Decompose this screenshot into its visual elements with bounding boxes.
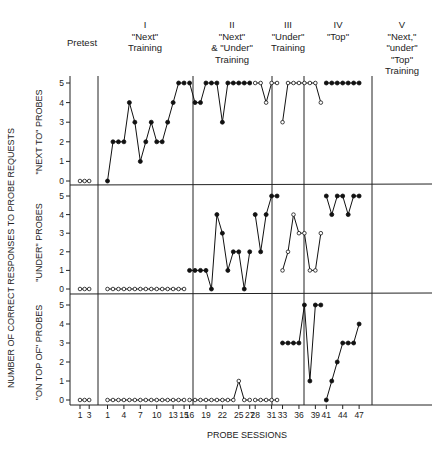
data-point-filled bbox=[193, 101, 197, 105]
data-point-open bbox=[155, 287, 159, 291]
data-point-open bbox=[275, 398, 279, 402]
data-point-filled bbox=[242, 287, 246, 291]
data-point-filled bbox=[253, 213, 257, 217]
data-point-open bbox=[264, 101, 268, 105]
series-line-v bbox=[326, 324, 359, 400]
series-line-i bbox=[108, 83, 185, 181]
data-point-open bbox=[87, 398, 91, 402]
data-point-open bbox=[303, 231, 307, 235]
data-point-open bbox=[160, 398, 164, 402]
x-tick-label: 1 bbox=[78, 410, 83, 420]
x-tick-label: 25 bbox=[234, 410, 244, 420]
data-point-open bbox=[182, 398, 186, 402]
data-point-filled bbox=[270, 194, 274, 198]
data-point-filled bbox=[215, 81, 219, 85]
x-tick-label: 22 bbox=[218, 410, 228, 420]
y-tick-label: 2 bbox=[59, 357, 64, 367]
data-point-open bbox=[303, 81, 307, 85]
x-tick-label: 4 bbox=[122, 410, 127, 420]
x-tick-label: 1 bbox=[105, 410, 110, 420]
chart-frame bbox=[70, 76, 432, 405]
multiple-baseline-chart: PretestI"Next"TrainingII"Next"& "Under"T… bbox=[0, 0, 444, 454]
y-tick-label: 3 bbox=[59, 117, 64, 127]
data-point-filled bbox=[341, 81, 345, 85]
data-point-filled bbox=[352, 194, 356, 198]
data-point-open bbox=[270, 398, 274, 402]
data-point-filled bbox=[275, 194, 279, 198]
x-tick-label: 41 bbox=[322, 410, 332, 420]
data-point-open bbox=[144, 398, 148, 402]
data-point-filled bbox=[122, 140, 126, 144]
x-tick-label: 16 bbox=[185, 410, 195, 420]
data-point-filled bbox=[231, 81, 235, 85]
data-point-filled bbox=[149, 120, 153, 124]
data-point-open bbox=[171, 287, 175, 291]
data-point-filled bbox=[215, 213, 219, 217]
data-point-filled bbox=[335, 360, 339, 364]
data-point-open bbox=[204, 398, 208, 402]
data-point-open bbox=[83, 398, 87, 402]
data-point-open bbox=[286, 81, 290, 85]
data-point-open bbox=[122, 398, 126, 402]
data-point-open bbox=[128, 398, 132, 402]
data-point-filled bbox=[138, 159, 142, 163]
data-point-open bbox=[106, 287, 110, 291]
data-point-filled bbox=[160, 140, 164, 144]
data-point-filled bbox=[188, 81, 192, 85]
y-tick-label: 5 bbox=[59, 78, 64, 88]
data-point-filled bbox=[352, 341, 356, 345]
data-point-open bbox=[166, 287, 170, 291]
x-tick-label: 13 bbox=[168, 410, 178, 420]
data-point-filled bbox=[193, 268, 197, 272]
data-point-filled bbox=[346, 213, 350, 217]
data-point-filled bbox=[177, 81, 181, 85]
phase-header-v: V bbox=[399, 19, 406, 30]
data-point-open bbox=[117, 287, 121, 291]
data-point-open bbox=[106, 398, 110, 402]
data-point-filled bbox=[106, 179, 110, 183]
data-point-filled bbox=[281, 341, 285, 345]
x-tick-label: 10 bbox=[152, 410, 162, 420]
series-line-iv bbox=[283, 83, 321, 122]
data-point-open bbox=[139, 398, 143, 402]
data-point-open bbox=[83, 287, 87, 291]
data-point-open bbox=[259, 81, 263, 85]
phase-header-iv: "Top" bbox=[327, 31, 349, 42]
phase-header-iv: IV bbox=[334, 19, 344, 30]
phase-header-v: Training bbox=[385, 65, 419, 76]
panel-1: 012345"NEXT TO" PROBES bbox=[34, 78, 361, 186]
x-tick-label: 33 bbox=[278, 410, 288, 420]
data-point-open bbox=[314, 269, 318, 273]
data-point-filled bbox=[209, 81, 213, 85]
data-point-open bbox=[177, 398, 181, 402]
phase-header-i: Training bbox=[128, 42, 162, 53]
data-point-filled bbox=[116, 140, 120, 144]
data-point-filled bbox=[198, 101, 202, 105]
x-axis-ticks: 1314710131516192225272831333639414447 bbox=[78, 405, 364, 420]
data-point-open bbox=[122, 287, 126, 291]
x-tick-label: 36 bbox=[294, 410, 304, 420]
x-tick-label: 47 bbox=[354, 410, 364, 420]
data-point-open bbox=[111, 398, 115, 402]
panel-title: "UNDER" PROBES bbox=[34, 203, 44, 281]
data-point-open bbox=[319, 101, 323, 105]
y-tick-label: 4 bbox=[59, 319, 64, 329]
data-point-filled bbox=[155, 140, 159, 144]
data-point-open bbox=[133, 398, 137, 402]
data-point-open bbox=[87, 287, 91, 291]
data-point-open bbox=[144, 287, 148, 291]
data-point-open bbox=[78, 179, 82, 183]
data-point-open bbox=[264, 398, 268, 402]
data-point-filled bbox=[330, 379, 334, 383]
data-point-open bbox=[188, 398, 192, 402]
y-tick-label: 2 bbox=[59, 247, 64, 257]
data-point-filled bbox=[341, 194, 345, 198]
x-axis-title: PROBE SESSIONS bbox=[207, 430, 287, 440]
data-point-open bbox=[177, 287, 181, 291]
data-point-filled bbox=[357, 322, 361, 326]
data-point-filled bbox=[188, 268, 192, 272]
data-point-filled bbox=[171, 101, 175, 105]
data-point-open bbox=[117, 398, 121, 402]
phase-header-ii: "Next" bbox=[219, 31, 245, 42]
data-point-filled bbox=[308, 379, 312, 383]
